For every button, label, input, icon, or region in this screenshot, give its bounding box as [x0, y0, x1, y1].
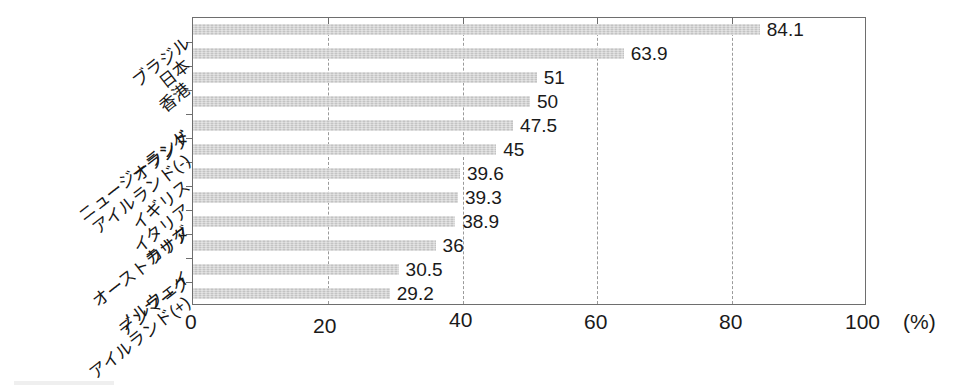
table-row: 29.2 — [193, 282, 867, 306]
bar-11 — [193, 288, 390, 299]
table-row: 30.5 — [193, 258, 867, 282]
bar-value-8: 38.9 — [462, 212, 499, 231]
bar-6 — [193, 168, 460, 179]
table-row: 39.6 — [193, 162, 867, 186]
plot-area: 84.1 63.9 51 50 47.5 45 — [192, 17, 866, 305]
bar-7 — [193, 192, 458, 203]
bar-value-3: 50 — [537, 92, 558, 111]
bar-value-0: 84.1 — [767, 20, 804, 39]
x-tick-label-40: 40 — [449, 309, 472, 330]
table-row: 45 — [193, 138, 867, 162]
bar-value-7: 39.3 — [465, 188, 502, 207]
bar-8 — [193, 216, 455, 227]
y-axis-tick — [186, 258, 193, 259]
page-artifact — [14, 381, 114, 385]
bar-value-4: 47.5 — [520, 116, 557, 135]
bar-value-6: 39.6 — [467, 164, 504, 183]
x-tick-label-20: 20 — [313, 315, 336, 336]
bar-value-9: 36 — [443, 236, 464, 255]
bar-value-2: 51 — [544, 68, 565, 87]
y-axis-tick — [186, 114, 193, 115]
bar-3 — [193, 96, 530, 107]
bar-value-5: 45 — [503, 140, 524, 159]
table-row: 36 — [193, 234, 867, 258]
x-axis-unit-label: (%) — [903, 311, 936, 332]
table-row: 47.5 — [193, 114, 867, 138]
bar-value-10: 30.5 — [406, 260, 443, 279]
table-row: 50 — [193, 90, 867, 114]
bar-4 — [193, 120, 513, 131]
bar-2 — [193, 72, 537, 83]
bar-10 — [193, 264, 399, 275]
x-tick-label-100: 100 — [845, 311, 880, 332]
x-tick-label-60: 60 — [584, 311, 607, 332]
bar-0 — [193, 24, 760, 35]
bar-1 — [193, 48, 624, 59]
table-row: 39.3 — [193, 186, 867, 210]
x-tick-label-0: 0 — [185, 311, 197, 332]
table-row: 63.9 — [193, 42, 867, 66]
table-row: 84.1 — [193, 18, 867, 42]
bar-9 — [193, 240, 436, 251]
table-row: 51 — [193, 66, 867, 90]
bar-value-1: 63.9 — [631, 44, 668, 63]
horizontal-bar-chart: 84.1 63.9 51 50 47.5 45 — [0, 0, 955, 388]
bar-value-11: 29.2 — [397, 284, 434, 303]
table-row: 38.9 — [193, 210, 867, 234]
x-tick-label-80: 80 — [719, 311, 742, 332]
bar-5 — [193, 144, 496, 155]
